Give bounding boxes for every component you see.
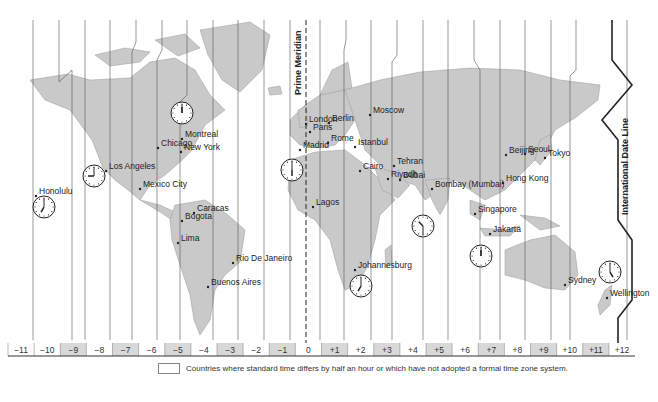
- city-label: Johannesburg: [358, 260, 412, 270]
- zone-label: +2: [356, 345, 366, 355]
- city-label: Montreal: [185, 129, 218, 139]
- zone-label: +3: [382, 345, 392, 355]
- clock-icon: [171, 102, 193, 124]
- city-dot: [181, 138, 183, 140]
- city-marker: Rio De Janeiro: [232, 253, 293, 264]
- city-marker: Berlin: [328, 113, 354, 124]
- city-dot: [399, 179, 401, 181]
- city-marker: Hong Kong: [502, 173, 549, 184]
- city-dot: [328, 122, 330, 124]
- clock-icon: [412, 215, 434, 237]
- city-label: Istanbul: [358, 137, 388, 147]
- city-marker: Lima: [177, 233, 200, 244]
- city-label: Buenos Aires: [211, 277, 261, 287]
- city-dot: [544, 157, 546, 159]
- city-dot: [564, 284, 566, 286]
- zone-label: +8: [513, 345, 523, 355]
- zone-label: −11: [14, 345, 28, 355]
- zone-label: −2: [251, 345, 261, 355]
- zone-strip: −11−10−9−8−7−6−5−4−3−2−10+1+2+3+4+5+6+7+…: [8, 343, 635, 356]
- city-label: Madrid: [303, 140, 329, 150]
- city-label: Tehran: [397, 156, 423, 166]
- zone-label: −10: [40, 345, 55, 355]
- city-marker: Sydney: [564, 275, 597, 286]
- city-label: Moscow: [373, 105, 405, 115]
- city-marker: Bogota: [181, 211, 212, 222]
- city-dot: [139, 188, 141, 190]
- zone-label: −4: [199, 345, 209, 355]
- clock-icon: [83, 165, 105, 187]
- zone-label: −1: [277, 345, 287, 355]
- date-line-label: International Date Line: [620, 118, 630, 215]
- city-marker: Madrid: [299, 140, 329, 151]
- zone-label: +12: [615, 345, 630, 355]
- city-marker: Seoul: [524, 144, 550, 155]
- zone-label: −5: [173, 345, 183, 355]
- legend-swatch: [158, 363, 180, 374]
- city-label: Dubai: [403, 170, 425, 180]
- city-dot: [369, 114, 371, 116]
- zone-label: −9: [68, 345, 78, 355]
- city-dot: [207, 286, 209, 288]
- city-marker: Bombay (Mumbai): [431, 179, 505, 190]
- city-dot: [393, 165, 395, 167]
- city-dot: [354, 269, 356, 271]
- zone-label: +11: [589, 345, 603, 355]
- zone-label: −7: [121, 345, 131, 355]
- zone-label: −6: [147, 345, 157, 355]
- city-label: Bombay (Mumbai): [435, 179, 505, 189]
- city-label: Rome: [331, 133, 354, 143]
- legend: Countries where standard time differs by…: [158, 363, 568, 374]
- city-label: Sydney: [568, 275, 597, 285]
- city-marker: Jakarta: [489, 224, 521, 235]
- clock-icon: [350, 275, 372, 297]
- city-dot: [431, 188, 433, 190]
- city-dot: [502, 182, 504, 184]
- city-label: Tokyo: [548, 148, 570, 158]
- city-marker: Singapore: [474, 204, 517, 215]
- city-label: Rio De Janeiro: [236, 253, 292, 263]
- city-label: Hong Kong: [506, 173, 549, 183]
- city-marker: Dubai: [399, 170, 426, 181]
- city-marker: Honolulu: [35, 186, 73, 197]
- city-dot: [309, 131, 311, 133]
- city-marker: Istanbul: [354, 137, 388, 148]
- zone-label: +10: [562, 345, 577, 355]
- greenland: [200, 22, 270, 92]
- city-marker: Moscow: [369, 105, 405, 116]
- clock-icon: [470, 245, 492, 267]
- city-dot: [489, 233, 491, 235]
- city-label: Berlin: [332, 113, 354, 123]
- city-marker: Lagos: [312, 197, 339, 208]
- city-dot: [177, 242, 179, 244]
- city-dot: [105, 170, 107, 172]
- city-dot: [354, 146, 356, 148]
- city-marker: Wellington: [606, 288, 650, 299]
- city-marker: New York: [180, 142, 221, 153]
- legend-text: Countries where standard time differs by…: [186, 364, 568, 373]
- city-label: Seoul: [528, 144, 550, 154]
- city-dot: [305, 123, 307, 125]
- zone-label: +1: [330, 345, 340, 355]
- zone-label: +9: [539, 345, 549, 355]
- city-marker: Rome: [327, 133, 354, 144]
- city-label: Cairo: [363, 161, 384, 171]
- city-dot: [181, 220, 183, 222]
- zone-label: +5: [434, 345, 444, 355]
- city-marker: Mexico City: [139, 179, 188, 190]
- city-label: Lima: [181, 233, 200, 243]
- clock-icon: [599, 261, 621, 283]
- clock-icon: [281, 159, 303, 181]
- prime-meridian-label: Prime Meridian: [293, 30, 303, 95]
- city-dot: [312, 206, 314, 208]
- zone-label: +4: [408, 345, 418, 355]
- time-zone-map: Prime Meridian International Date Line −…: [0, 0, 658, 402]
- zone-label: 0: [306, 345, 311, 355]
- city-dot: [180, 151, 182, 153]
- city-marker: Buenos Aires: [207, 277, 261, 288]
- city-label: Honolulu: [39, 186, 73, 196]
- city-dot: [505, 154, 507, 156]
- city-dot: [157, 147, 159, 149]
- zone-label: +7: [486, 345, 496, 355]
- city-label: Mexico City: [143, 179, 188, 189]
